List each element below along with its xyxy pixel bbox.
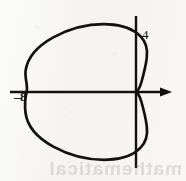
figure-panel: 4 –8 mathematical (0, 0, 186, 181)
x-axis (10, 88, 172, 97)
x-intercept-label: –8 (14, 90, 26, 103)
x-axis-arrowhead-icon (160, 88, 172, 97)
cardioid-figure (0, 0, 186, 181)
y-intercept-label: 4 (142, 28, 149, 41)
